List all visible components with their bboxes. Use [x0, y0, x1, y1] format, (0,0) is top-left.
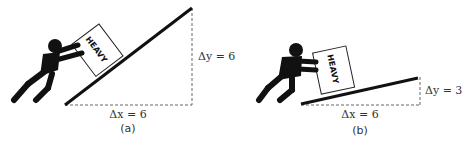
delta-y-label-a: Δy = 6 [198, 50, 235, 63]
caption-b: (b) [352, 124, 368, 137]
delta-y-label-b: Δy = 3 [425, 84, 462, 97]
pushing-person-icon-a [14, 39, 82, 100]
caption-a: (a) [120, 122, 135, 135]
pushing-person-icon-b [259, 43, 316, 100]
heavy-box-b: HEAVY [313, 46, 355, 94]
slope-comparison-diagram: HEAVY Δy = 6 Δx = 6 (a) [0, 0, 465, 148]
heavy-box-a: HEAVY [72, 24, 123, 76]
delta-x-label-b: Δx = 6 [341, 108, 378, 121]
panel-b: HEAVY Δy = 3 Δx = 6 (b) [259, 43, 462, 137]
delta-x-label-a: Δx = 6 [109, 108, 146, 121]
panel-a: HEAVY Δy = 6 Δx = 6 (a) [14, 8, 235, 135]
